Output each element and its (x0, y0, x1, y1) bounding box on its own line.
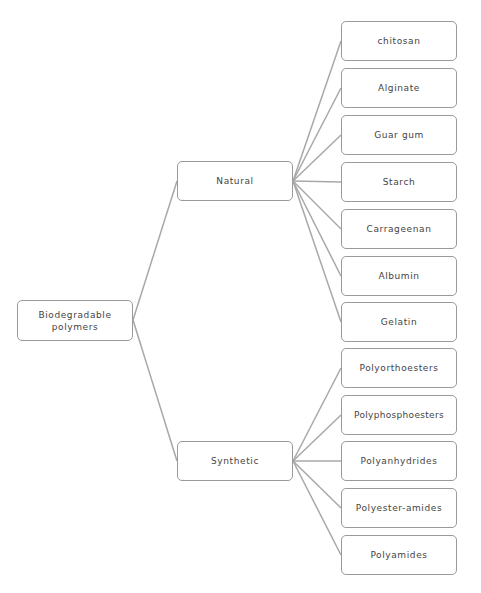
branch-node-natural: Natural (177, 161, 293, 201)
leaf-label: Carrageenan (367, 223, 432, 235)
root-label-line2: polymers (52, 321, 99, 333)
leaf-node-carrageenan: Carrageenan (341, 209, 457, 249)
branch-node-synthetic: Synthetic (177, 441, 293, 481)
leaf-label: Polyorthoesters (359, 362, 438, 374)
leaf-label: Polyanhydrides (361, 455, 438, 467)
leaf-label: Polyester-amides (356, 502, 442, 514)
leaf-label: Alginate (378, 82, 420, 94)
leaf-node-gelatin: Gelatin (341, 302, 457, 342)
leaf-node-chitosan: chitosan (341, 21, 457, 61)
root-node-biodegradable-polymers: Biodegradable polymers (17, 300, 133, 341)
leaf-node-polyorthoesters: Polyorthoesters (341, 348, 457, 388)
branch-label: Synthetic (211, 455, 259, 467)
leaf-node-polyamides: Polyamides (341, 535, 457, 575)
leaf-node-starch: Starch (341, 162, 457, 202)
leaf-label: Polyphosphoesters (354, 409, 444, 421)
leaf-node-guar-gum: Guar gum (341, 115, 457, 155)
leaf-node-polyanhydrides: Polyanhydrides (341, 441, 457, 481)
leaf-node-polyester-amides: Polyester-amides (341, 488, 457, 528)
root-label-line1: Biodegradable (38, 309, 111, 321)
leaf-label: Polyamides (370, 549, 427, 561)
branch-label: Natural (216, 175, 253, 187)
leaf-node-polyphosphoesters: Polyphosphoesters (341, 395, 457, 435)
leaf-label: Guar gum (374, 129, 424, 141)
leaf-label: Starch (383, 176, 416, 188)
leaf-node-alginate: Alginate (341, 68, 457, 108)
leaf-label: Gelatin (381, 316, 417, 328)
leaf-node-albumin: Albumin (341, 256, 457, 296)
leaf-label: Albumin (378, 270, 419, 282)
leaf-label: chitosan (378, 35, 421, 47)
